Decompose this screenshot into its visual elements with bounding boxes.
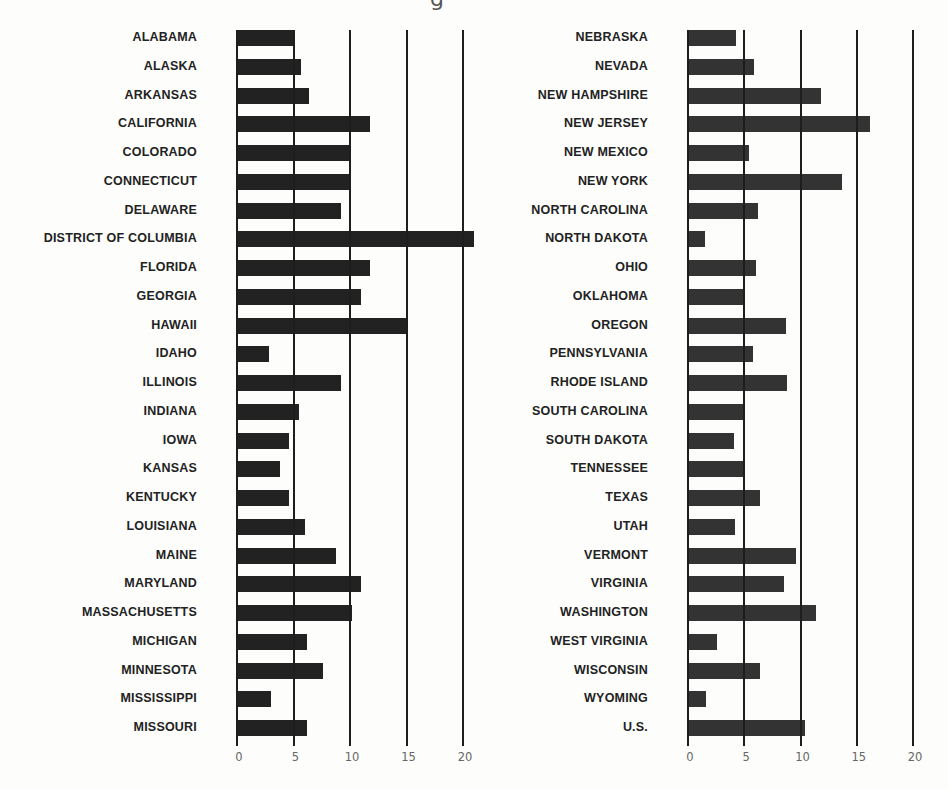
bar: [688, 663, 760, 679]
category-label: WYOMING: [584, 691, 648, 705]
bar: [688, 691, 706, 707]
gridline: [800, 30, 802, 746]
bar: [688, 461, 745, 477]
gridline: [743, 30, 745, 746]
category-label: TENNESSEE: [570, 461, 648, 475]
category-label: NEVADA: [595, 59, 648, 73]
bar: [688, 605, 816, 621]
bar: [688, 231, 705, 247]
category-label: WASHINGTON: [560, 605, 648, 619]
category-label: U.S.: [623, 720, 648, 734]
category-label: OKLAHOMA: [573, 289, 648, 303]
category-label: VIRGINIA: [591, 576, 648, 590]
bar: [688, 260, 756, 276]
bar: [688, 375, 787, 391]
tick-label: 10: [795, 750, 810, 764]
category-label: NEW HAMPSHIRE: [538, 88, 648, 102]
axis-line: [687, 30, 689, 746]
category-label: NORTH CAROLINA: [531, 203, 648, 217]
bar: [688, 433, 734, 449]
category-label: SOUTH CAROLINA: [532, 404, 648, 418]
tick-label: 15: [851, 750, 866, 764]
category-label: NORTH DAKOTA: [545, 231, 648, 245]
category-label: VERMONT: [584, 548, 648, 562]
tick-label: 5: [743, 750, 750, 764]
category-label: NEBRASKA: [576, 30, 648, 44]
category-label: WEST VIRGINIA: [550, 634, 648, 648]
bar: [688, 174, 842, 190]
category-label: UTAH: [613, 519, 648, 533]
tick-label: 0: [686, 750, 693, 764]
chart-right: NEBRASKANEVADANEW HAMPSHIRENEW JERSEYNEW…: [0, 0, 948, 789]
bar: [688, 145, 749, 161]
bar: [688, 519, 735, 535]
bar: [688, 30, 736, 46]
category-label: SOUTH DAKOTA: [546, 433, 648, 447]
category-label: RHODE ISLAND: [550, 375, 648, 389]
bar: [688, 548, 796, 564]
category-label: OHIO: [615, 260, 648, 274]
bar: [688, 318, 786, 334]
category-label: WISCONSIN: [574, 663, 648, 677]
category-label: NEW JERSEY: [564, 116, 648, 130]
category-label: PENNSYLVANIA: [550, 346, 648, 360]
bar: [688, 203, 758, 219]
category-label: NEW MEXICO: [564, 145, 648, 159]
gridline: [856, 30, 858, 746]
category-label: NEW YORK: [578, 174, 648, 188]
gridline: [912, 30, 914, 746]
bar: [688, 720, 805, 736]
bar: [688, 404, 745, 420]
category-label: OREGON: [591, 318, 648, 332]
bar: [688, 576, 784, 592]
bar: [688, 116, 870, 132]
tick-label: 20: [908, 750, 923, 764]
bar: [688, 289, 745, 305]
bar: [688, 490, 760, 506]
bar: [688, 634, 717, 650]
category-label: TEXAS: [605, 490, 648, 504]
